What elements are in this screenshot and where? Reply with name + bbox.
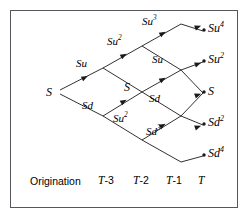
edge-label-su-2: Su (152, 54, 163, 65)
edge-label-su2-lower: Su2 (113, 113, 128, 124)
node-dot (202, 122, 205, 125)
edge-term-4 (181, 116, 203, 125)
terminal-node-su2: Su2 (208, 53, 224, 65)
axis-label-t-minus-3: T-3 (98, 175, 114, 187)
edge-label-sd-2: Sd (149, 93, 160, 104)
edge-term-3 (181, 93, 203, 116)
arrowhead-terminal (194, 60, 202, 67)
node-dot (202, 59, 205, 62)
terminal-node-sd4: Sd4 (208, 147, 224, 159)
node-dot (202, 153, 205, 156)
lattice-edges (60, 24, 203, 162)
edge-down-1 (103, 68, 142, 92)
terminal-node-s: S (208, 85, 214, 97)
axis-label-t-minus-1: T-1 (166, 175, 182, 187)
axis-label-origination: Origination (30, 176, 81, 187)
axis-label-t-final: T (198, 175, 204, 187)
edge-term-0 (181, 24, 203, 31)
edge-down-4 (142, 92, 181, 116)
node-label-origination: S (46, 86, 52, 98)
edge-down-5 (142, 140, 181, 162)
node-dot (202, 28, 205, 31)
edge-label-su-1: Su (76, 58, 87, 69)
edge-label-sd3: Sd3 (146, 126, 161, 137)
edge-label-sd-1: Sd (82, 100, 93, 111)
node-dot (202, 90, 205, 93)
edge-label-su3: Su3 (142, 16, 157, 27)
terminal-node-su4: Su4 (208, 22, 224, 34)
binomial-lattice-figure: S Su Sd Su2 S Su2 Su3 Su Sd Sd3 Su4 Su2 … (0, 0, 248, 218)
edge-term-5 (181, 156, 203, 162)
edge-label-su2-upper: Su2 (107, 36, 122, 47)
node-label-middle-s: S (124, 81, 130, 93)
edge-up-0 (60, 68, 103, 90)
terminal-node-dots (202, 28, 205, 156)
edge-term-2 (181, 70, 203, 93)
arrowhead-up (81, 74, 89, 82)
axis-label-t-minus-2: T-2 (133, 175, 149, 187)
terminal-node-sd2: Sd2 (208, 116, 224, 128)
